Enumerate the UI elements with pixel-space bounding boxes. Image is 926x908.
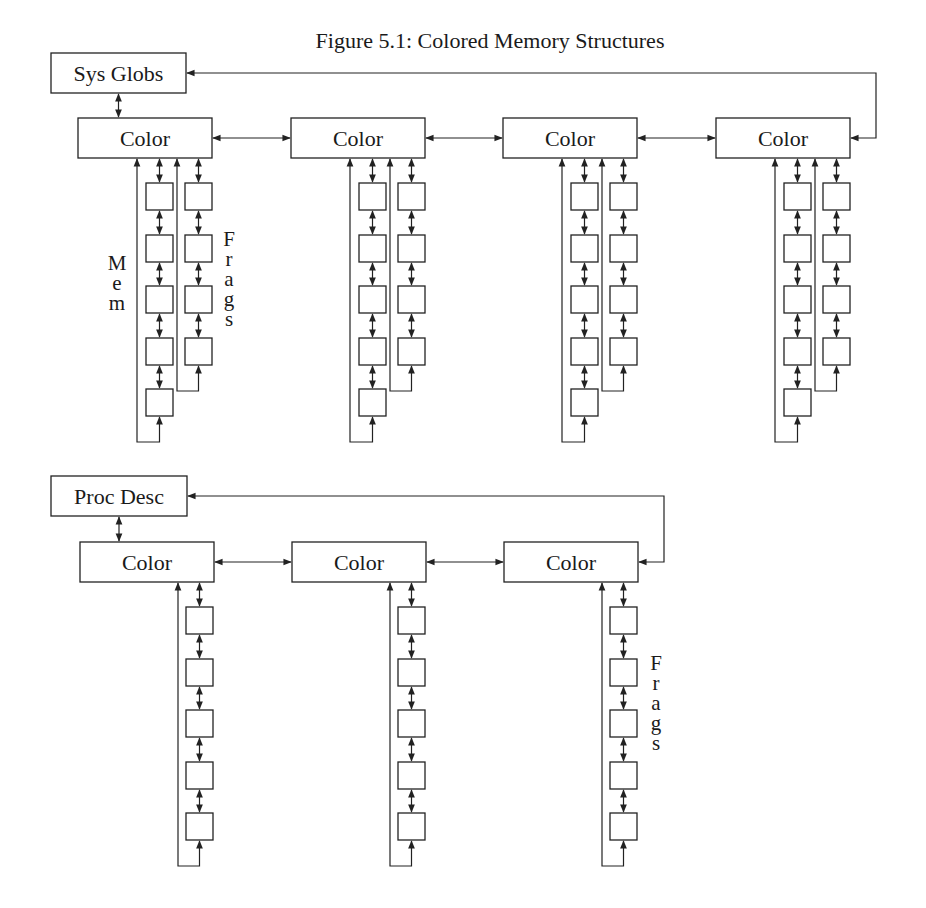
color-label: Color (546, 550, 597, 575)
frags-node-box (185, 286, 212, 313)
frags-node-box (610, 338, 637, 365)
figure-title: Figure 5.1: Colored Memory Structures (316, 28, 665, 53)
frags-node-box (398, 338, 425, 365)
mem-node-box (359, 338, 386, 365)
frags-node-box (610, 286, 637, 313)
color-label: Color (122, 550, 173, 575)
mem-node-box (359, 235, 386, 262)
mem-node-box (784, 183, 811, 210)
frags-node-box (823, 338, 850, 365)
mem-node-box (784, 235, 811, 262)
color-group: Color (503, 118, 715, 442)
color-group: Color (80, 542, 291, 866)
color-group: Color (292, 542, 503, 866)
frags-node-box (823, 286, 850, 313)
mem-node-box (571, 183, 598, 210)
colored-memory-structures-diagram: Figure 5.1: Colored Memory Structures Sy… (0, 0, 926, 908)
frags-node-box (398, 762, 425, 789)
frags-node-box (610, 235, 637, 262)
color-label: Color (120, 126, 171, 151)
color-label: Color (333, 126, 384, 151)
frags-vertical-label: Frags (223, 227, 235, 331)
frags-node-box (610, 813, 637, 840)
diagram-content: Sys GlobsColorColorColorColorMemFragsPro… (51, 53, 876, 866)
color-label: Color (758, 126, 809, 151)
mem-node-box (359, 183, 386, 210)
mem-node-box (784, 286, 811, 313)
frags-node-box (398, 710, 425, 737)
mem-node-box (146, 286, 173, 313)
mem-node-box (571, 338, 598, 365)
color-group: Color (291, 118, 502, 442)
frags-node-box (610, 607, 637, 634)
frags-node-box (186, 710, 213, 737)
mem-node-box (146, 338, 173, 365)
frags-node-box (186, 607, 213, 634)
frags-node-box (185, 235, 212, 262)
mem-node-box (784, 389, 811, 416)
frags-node-box (823, 235, 850, 262)
mem-node-box (146, 389, 173, 416)
proc-desc-label: Proc Desc (74, 484, 164, 509)
frags-node-box (610, 762, 637, 789)
mem-node-box (146, 235, 173, 262)
frags-vertical-label: Frags (650, 651, 662, 755)
sys-globs-label: Sys Globs (74, 61, 164, 86)
frags-node-box (610, 183, 637, 210)
frags-node-box (186, 659, 213, 686)
frags-node-box (185, 338, 212, 365)
frags-node-box (185, 183, 212, 210)
frags-node-box (398, 286, 425, 313)
mem-node-box (146, 183, 173, 210)
frags-node-box (398, 659, 425, 686)
color-group: Color (504, 542, 638, 866)
frags-node-box (186, 762, 213, 789)
frags-node-box (186, 813, 213, 840)
proc-desc-structure: Proc DescColorColorColorFrags (51, 476, 664, 866)
frags-node-box (610, 710, 637, 737)
frags-node-box (398, 813, 425, 840)
color-label: Color (334, 550, 385, 575)
frags-node-box (398, 607, 425, 634)
mem-node-box (571, 286, 598, 313)
frags-node-box (823, 183, 850, 210)
frags-node-box (610, 659, 637, 686)
color-label: Color (545, 126, 596, 151)
frags-node-box (398, 235, 425, 262)
mem-node-box (359, 389, 386, 416)
frags-node-box (398, 183, 425, 210)
mem-vertical-label: Mem (108, 251, 127, 315)
color-group: Color (78, 118, 290, 442)
mem-node-box (571, 389, 598, 416)
mem-node-box (571, 235, 598, 262)
mem-node-box (784, 338, 811, 365)
color-group: Color (716, 118, 850, 442)
mem-node-box (359, 286, 386, 313)
sys-globs-structure: Sys GlobsColorColorColorColorMemFrags (51, 53, 876, 442)
